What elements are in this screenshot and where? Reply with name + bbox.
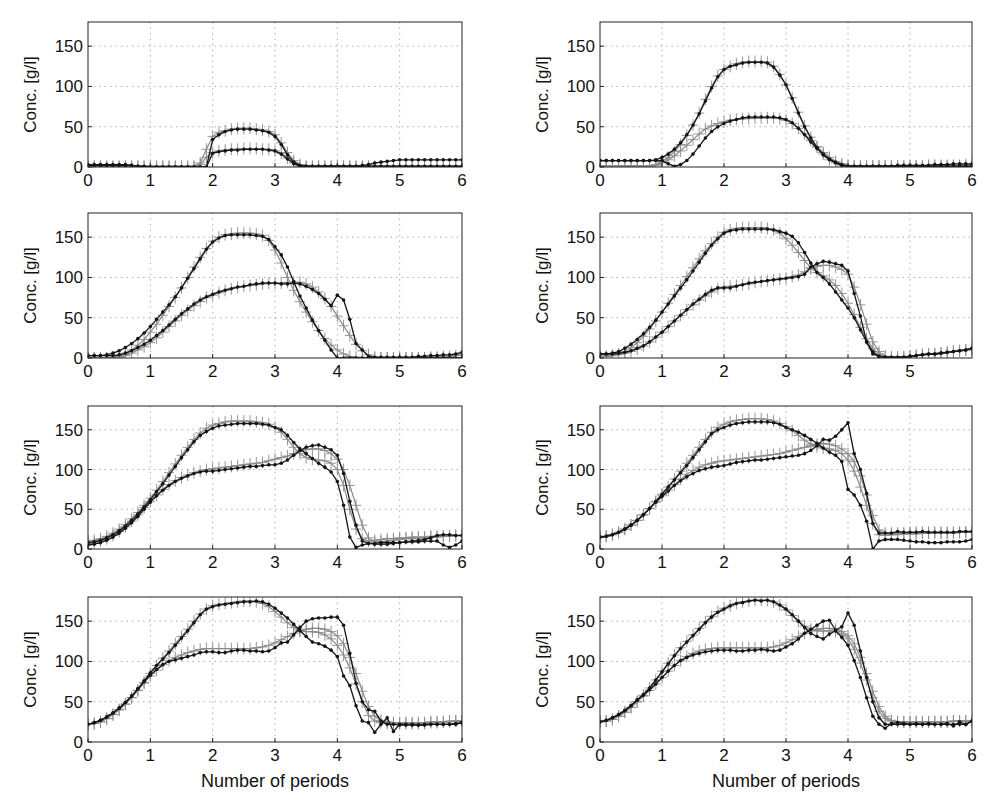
y-tick-label: 100	[567, 652, 595, 671]
y-tick-label: 0	[586, 158, 595, 177]
panel-row4-right: 0123456050100150Conc. [g/l]Number of per…	[533, 594, 977, 791]
x-tick-label: 0	[595, 746, 604, 765]
x-tick-label: 5	[395, 746, 404, 765]
y-tick-label: 0	[74, 733, 83, 752]
dot-markers	[86, 422, 464, 550]
x-tick-label: 4	[843, 553, 852, 572]
figure: 0123456050100150Conc. [g/l]0123456050100…	[0, 0, 995, 812]
dot-markers	[598, 60, 974, 168]
plus-markers	[83, 622, 467, 730]
x-tick-label: 2	[719, 746, 728, 765]
y-tick-label: 50	[576, 118, 595, 137]
x-tick-label: 1	[146, 171, 155, 190]
x-tick-label: 0	[595, 553, 604, 572]
grid	[600, 22, 972, 167]
x-tick-label: 6	[967, 171, 976, 190]
y-axis-label: Conc. [g/l]	[21, 631, 40, 708]
series-group	[595, 594, 977, 730]
x-tick-label: 3	[270, 746, 279, 765]
y-tick-label: 50	[64, 500, 83, 519]
x-tick-label: 2	[719, 362, 728, 381]
y-tick-label: 100	[567, 268, 595, 287]
series-group	[595, 413, 977, 551]
x-tick-label: 4	[843, 746, 852, 765]
x-axis-label: Number of periods	[201, 771, 349, 791]
x-tick-label: 0	[83, 362, 92, 381]
x-tick-label: 1	[146, 362, 155, 381]
x-tick-label: 4	[333, 171, 342, 190]
y-axis-label: Conc. [g/l]	[533, 56, 552, 133]
x-tick-label: 0	[595, 171, 604, 190]
y-tick-label: 0	[586, 349, 595, 368]
y-tick-label: 150	[55, 228, 83, 247]
panel-row3-left: 0123456050100150Conc. [g/l]	[21, 406, 467, 572]
y-axis-label: Conc. [g/l]	[533, 631, 552, 708]
x-tick-label: 3	[781, 362, 790, 381]
x-tick-label: 3	[781, 746, 790, 765]
y-tick-label: 150	[567, 612, 595, 631]
x-tick-label: 3	[270, 362, 279, 381]
x-tick-label: 4	[333, 553, 342, 572]
x-tick-label: 4	[843, 362, 852, 381]
x-tick-label: 0	[83, 171, 92, 190]
x-tick-label: 6	[967, 746, 976, 765]
x-tick-label: 1	[657, 553, 666, 572]
panel-row3-right: 0123456050100150Conc. [g/l]	[533, 406, 977, 572]
y-tick-label: 100	[55, 77, 83, 96]
x-tick-label: 6	[457, 746, 466, 765]
series-group	[83, 415, 467, 549]
y-tick-label: 100	[567, 461, 595, 480]
x-tick-label: 1	[146, 553, 155, 572]
plus-markers	[83, 142, 467, 173]
x-tick-label: 5	[395, 553, 404, 572]
x-tick-label: 5	[905, 362, 914, 381]
x-tick-label: 5	[395, 171, 404, 190]
y-axis-label: Conc. [g/l]	[533, 247, 552, 324]
x-tick-label: 5	[905, 553, 914, 572]
x-tick-label: 0	[83, 553, 92, 572]
x-tick-label: 4	[333, 362, 342, 381]
y-axis-label: Conc. [g/l]	[21, 247, 40, 324]
y-tick-label: 0	[74, 158, 83, 177]
x-tick-label: 6	[457, 553, 466, 572]
y-tick-label: 150	[55, 37, 83, 56]
x-tick-label: 5	[905, 171, 914, 190]
panel-row2-left: 0123456050100150Conc. [g/l]	[21, 213, 467, 381]
y-tick-label: 50	[64, 693, 83, 712]
plus-markers	[595, 259, 977, 363]
y-tick-label: 150	[567, 37, 595, 56]
x-tick-label: 3	[270, 553, 279, 572]
x-tick-label: 2	[208, 362, 217, 381]
x-tick-label: 3	[781, 171, 790, 190]
x-tick-label: 6	[967, 553, 976, 572]
panel-row1-left: 0123456050100150Conc. [g/l]	[21, 22, 467, 190]
y-tick-label: 50	[576, 693, 595, 712]
x-tick-label: 2	[719, 171, 728, 190]
x-tick-label: 6	[457, 171, 466, 190]
y-tick-label: 150	[567, 228, 595, 247]
y-tick-label: 100	[55, 268, 83, 287]
x-tick-label: 5	[395, 362, 404, 381]
x-tick-label: 1	[657, 746, 666, 765]
x-tick-label: 1	[146, 746, 155, 765]
x-tick-label: 2	[208, 553, 217, 572]
x-tick-label: 1	[657, 171, 666, 190]
y-tick-label: 0	[586, 540, 595, 559]
x-tick-label: 5	[905, 746, 914, 765]
y-tick-label: 50	[576, 309, 595, 328]
y-tick-label: 0	[586, 733, 595, 752]
y-tick-label: 0	[74, 349, 83, 368]
y-tick-label: 100	[567, 77, 595, 96]
y-tick-label: 150	[55, 421, 83, 440]
plus-markers	[83, 595, 467, 730]
x-tick-label: 6	[457, 362, 466, 381]
panel-row2-right: 012345050100150Conc. [g/l]	[533, 213, 977, 381]
x-tick-label: 1	[657, 362, 666, 381]
series-line-0	[88, 424, 462, 548]
y-tick-label: 50	[576, 500, 595, 519]
y-tick-label: 50	[64, 309, 83, 328]
dot-markers	[86, 615, 464, 727]
y-axis-label: Conc. [g/l]	[21, 56, 40, 133]
x-tick-label: 2	[208, 171, 217, 190]
x-tick-label: 0	[83, 746, 92, 765]
